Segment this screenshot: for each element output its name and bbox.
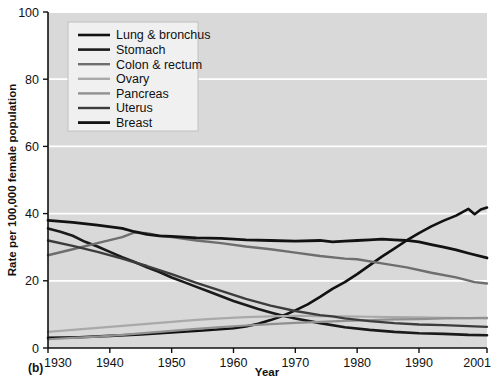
y-axis-title: Rate per 100,000 female population (6, 84, 18, 276)
y-tick-label: 40 (25, 207, 39, 221)
legend-label: Pancreas (116, 87, 169, 101)
y-tick-label: 20 (25, 274, 39, 288)
legend-label: Uterus (116, 101, 153, 115)
x-tick-label: 1940 (96, 356, 124, 370)
y-tick-label: 80 (25, 73, 39, 87)
x-tick-label: 1970 (281, 356, 309, 370)
y-tick-label: 100 (18, 6, 39, 20)
x-tick-label: 1980 (343, 356, 371, 370)
legend-label: Ovary (116, 72, 150, 86)
legend-label: Breast (116, 116, 153, 130)
x-tick-label: 1960 (220, 356, 248, 370)
x-tick-label: 1930 (44, 356, 72, 370)
y-tick-label: 0 (32, 342, 39, 356)
x-tick-label: 2001 (463, 356, 491, 370)
x-tick-label: 1990 (405, 356, 433, 370)
line-chart: 19301940195019601970198019902001 0204060… (0, 0, 504, 385)
legend-label: Colon & rectum (116, 58, 202, 72)
panel-label: (b) (28, 361, 43, 375)
x-axis-title: Year (255, 366, 280, 378)
x-tick-label: 1950 (158, 356, 186, 370)
y-tick-label: 60 (25, 140, 39, 154)
legend-label: Stomach (116, 43, 165, 57)
chart-legend: Lung & bronchusStomachColon & rectumOvar… (68, 22, 211, 131)
figure-panel: 19301940195019601970198019902001 0204060… (0, 0, 504, 385)
legend-label: Lung & bronchus (116, 28, 211, 42)
